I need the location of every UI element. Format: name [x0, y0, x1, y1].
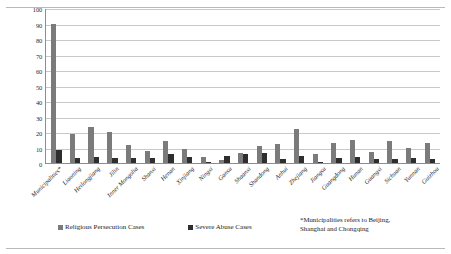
bar-severe-abuse[interactable] — [374, 159, 379, 163]
x-axis-line — [45, 163, 440, 164]
y-axis-tick: 20 — [36, 130, 42, 137]
x-axis-tick: Municipalities* — [30, 165, 63, 198]
y-axis-tick: 10 — [36, 145, 42, 152]
bar-group — [140, 9, 159, 163]
bar-severe-abuse[interactable] — [411, 158, 416, 163]
x-axis-tick: Xinjiang — [174, 165, 195, 186]
bar-severe-abuse[interactable] — [131, 158, 136, 163]
x-axis-tick: Guangxi — [363, 165, 384, 186]
bar-group — [196, 9, 215, 163]
x-axis-tick: Jilin — [107, 165, 120, 178]
legend-label: Severe Abuse Cases — [195, 223, 251, 231]
bar-severe-abuse[interactable] — [112, 158, 117, 163]
bar-severe-abuse[interactable] — [206, 162, 211, 163]
bar-group — [66, 9, 85, 163]
bar-group — [215, 9, 234, 163]
y-axis-tick: 80 — [36, 37, 42, 44]
x-axis-tick: Sichuan — [382, 165, 402, 185]
x-axis-tick: Gansu — [216, 165, 233, 182]
y-axis-tick: 100 — [33, 6, 42, 13]
bar-severe-abuse[interactable] — [168, 154, 173, 163]
bar-group — [402, 9, 421, 163]
bar-severe-abuse[interactable] — [56, 150, 61, 163]
bar-severe-abuse[interactable] — [243, 154, 248, 163]
y-axis-tick: 60 — [36, 68, 42, 75]
bar-severe-abuse[interactable] — [150, 158, 155, 163]
x-axis-tick: Zhejiang — [287, 165, 308, 186]
y-axis-tick: 40 — [36, 99, 42, 106]
bar-group — [364, 9, 383, 163]
footnote-line-1: Municipalities refers to Beijing, — [303, 216, 390, 223]
y-axis-tick: 90 — [36, 21, 42, 28]
bar-severe-abuse[interactable] — [94, 157, 99, 163]
bar-group — [290, 9, 309, 163]
bar-group — [271, 9, 290, 163]
bar-group — [327, 9, 346, 163]
y-axis-tick-labels: 0102030405060708090100 — [22, 9, 42, 164]
bar-group — [47, 9, 66, 163]
x-axis-tick: Guizhou — [419, 165, 439, 185]
bar-group — [234, 9, 253, 163]
y-axis-tick: 0 — [39, 161, 42, 168]
chart-footnote: *Municipalities refers to Beijing, Shang… — [300, 215, 445, 233]
bar-group — [383, 9, 402, 163]
bar-group — [420, 9, 439, 163]
bar-group — [346, 9, 365, 163]
x-axis-tick: Anhui — [273, 165, 289, 181]
bar-group — [103, 9, 122, 163]
x-axis-tick: Ningxi — [197, 165, 214, 182]
legend-item-severe-abuse[interactable]: Severe Abuse Cases — [188, 223, 251, 231]
bar-group — [122, 9, 141, 163]
bar-group — [84, 9, 103, 163]
x-axis-tick: Shanxi — [140, 165, 157, 182]
bar-severe-abuse[interactable] — [318, 162, 323, 163]
bar-severe-abuse[interactable] — [355, 157, 360, 163]
bar-severe-abuse[interactable] — [75, 158, 80, 163]
bar-severe-abuse[interactable] — [187, 157, 192, 163]
bar-group — [308, 9, 327, 163]
legend-swatch-icon — [188, 225, 193, 230]
bar-severe-abuse[interactable] — [262, 153, 267, 163]
chart-legend: Religious Persecution Cases Severe Abuse… — [58, 223, 252, 231]
bar-severe-abuse[interactable] — [392, 159, 397, 163]
chart-figure: 0102030405060708090100 Municipalities*Li… — [0, 0, 451, 254]
footnote-line-2: Shanghai and Chongqing — [300, 225, 369, 232]
y-axis-tick: 50 — [36, 83, 42, 90]
bar-severe-abuse[interactable] — [336, 158, 341, 163]
legend-item-religious-persecution[interactable]: Religious Persecution Cases — [58, 223, 144, 231]
bar-severe-abuse[interactable] — [224, 156, 229, 163]
bar-severe-abuse[interactable] — [430, 159, 435, 163]
y-axis-tick: 70 — [36, 52, 42, 59]
bar-group — [252, 9, 271, 163]
bar-severe-abuse[interactable] — [299, 156, 304, 163]
x-axis-tick: Yunnan — [402, 165, 420, 183]
bar-series-container — [46, 9, 440, 163]
legend-swatch-icon — [58, 225, 63, 230]
legend-label: Religious Persecution Cases — [65, 223, 144, 231]
bar-severe-abuse[interactable] — [280, 159, 285, 163]
bar-religious-persecution[interactable] — [51, 24, 56, 164]
bar-group — [159, 9, 178, 163]
plot-area — [45, 9, 440, 164]
y-axis-tick: 30 — [36, 114, 42, 121]
bar-group — [178, 9, 197, 163]
